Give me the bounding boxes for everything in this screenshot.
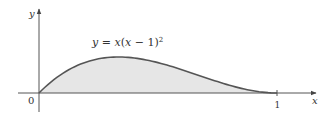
chart-canvas: y x 0 1 y = x(x − 1)2 xyxy=(0,0,328,118)
y-axis-label: y xyxy=(28,8,35,19)
function-label-exponent: 2 xyxy=(159,36,163,44)
function-label: y = x(x − 1)2 xyxy=(91,36,163,49)
x-tick-label-1: 1 xyxy=(275,100,281,110)
x-axis-label: x xyxy=(312,95,318,106)
function-label-minus: − 1) xyxy=(131,36,159,49)
origin-label: 0 xyxy=(28,95,34,106)
function-label-eq: = xyxy=(98,36,114,49)
